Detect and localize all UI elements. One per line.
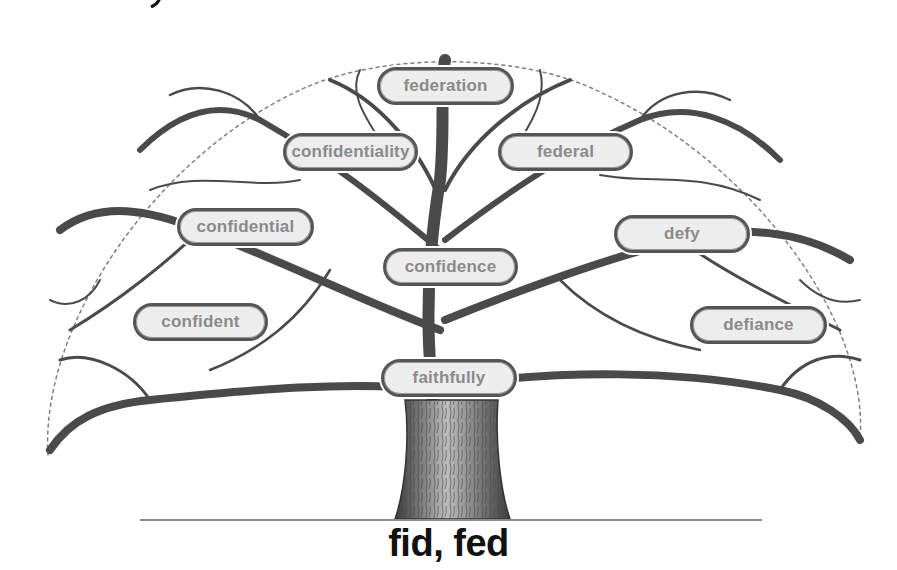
root-label: fid, fed xyxy=(0,522,897,565)
word-node-defiance: defiance xyxy=(690,306,827,344)
word-node-defy: defy xyxy=(614,215,750,253)
word-node-confidentiality: confidentiality xyxy=(283,133,418,171)
word-node-confident: confident xyxy=(133,303,268,341)
word-tree-diagram: federationconfidentialityfederalconfiden… xyxy=(0,0,897,570)
word-node-federation: federation xyxy=(377,67,514,105)
word-node-confidence: confidence xyxy=(383,248,518,286)
word-node-faithfully: faithfully xyxy=(381,359,517,397)
ground-line xyxy=(140,519,762,521)
word-node-federal: federal xyxy=(498,133,633,171)
word-node-confidential: confidential xyxy=(177,208,314,246)
